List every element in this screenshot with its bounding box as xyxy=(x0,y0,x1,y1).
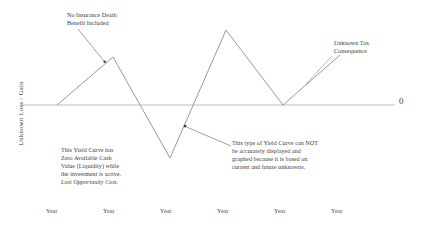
x-tick-label-year-3: Year xyxy=(160,208,172,214)
leader-line-unknown-tax xyxy=(306,56,332,84)
x-tick-label-year-2: Year xyxy=(103,208,115,214)
x-tick-label-year-4: Year xyxy=(217,208,229,214)
chart-canvas xyxy=(0,0,432,235)
y-axis-label: Unknown Loss / Gain xyxy=(17,66,24,162)
annotation-cannot-be-graphed: This type of Yield Curve can NOT be accu… xyxy=(232,139,350,171)
annotation-zero-available-cash-value: This Yield Curve has Zero Available Cash… xyxy=(61,138,157,195)
leader-dot-no-insurance xyxy=(104,61,106,63)
annotation-lost-opportunity-cost: Lost Opportunity Cost. xyxy=(61,178,157,186)
annotation-unknown-tax-consequence: Unknown Tax Consequence xyxy=(334,39,420,55)
zero-axis-label: 0 xyxy=(399,96,404,106)
leader-dot-cannot-be-graphed xyxy=(184,125,186,127)
x-tick-label-year-5: Year xyxy=(274,208,286,214)
leader-line-cannot-be-graphed xyxy=(187,127,232,146)
x-tick-label-year-1: Year xyxy=(46,208,58,214)
annotation-no-insurance-death-benefit: No Insurance Death Benefit Included xyxy=(67,11,159,27)
annotation-zero-cash-body: This Yield Curve has Zero Available Cash… xyxy=(61,147,121,177)
x-tick-label-year-6: Year xyxy=(331,208,343,214)
yield-curve-figure: Unknown Loss / Gain 0 No Insurance Death… xyxy=(0,0,432,235)
leader-line-no-insurance xyxy=(78,29,104,61)
